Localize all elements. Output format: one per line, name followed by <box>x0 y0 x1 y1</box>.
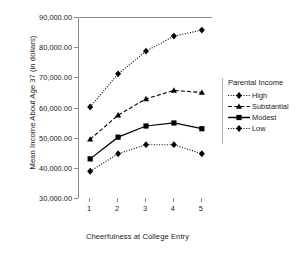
series-line <box>90 145 202 172</box>
data-point-marker <box>115 135 120 140</box>
legend-swatch-diamond-icon <box>228 90 250 101</box>
data-point-marker <box>171 33 177 40</box>
legend-title: Parental Income <box>228 78 303 87</box>
data-point-marker <box>171 87 177 92</box>
data-point-marker <box>199 150 205 157</box>
series-line <box>90 30 202 107</box>
legend-label: Substantial <box>252 102 289 111</box>
y-tick-mark <box>74 47 78 48</box>
x-axis-title: Cheerfulness at College Entry <box>60 232 215 241</box>
data-point-marker <box>199 126 204 131</box>
x-tick-label: 3 <box>135 204 155 213</box>
y-tick-label: 90,000.00 <box>18 13 72 22</box>
legend-label: High <box>252 91 267 100</box>
data-point-marker <box>115 70 121 77</box>
data-point-marker <box>199 27 205 34</box>
plot-lines-svg <box>79 18 213 199</box>
y-tick-label: 80,000.00 <box>18 43 72 52</box>
y-tick-label: 30,000.00 <box>18 194 72 203</box>
data-point-marker <box>143 141 149 148</box>
data-point-marker <box>87 168 93 175</box>
y-tick-mark <box>74 168 78 169</box>
y-tick-label: 40,000.00 <box>18 163 72 172</box>
y-tick-mark <box>74 77 78 78</box>
plot-area <box>78 17 212 198</box>
x-tick-mark <box>89 198 90 202</box>
legend-swatch-square-icon <box>228 112 250 123</box>
data-point-marker <box>143 123 148 128</box>
y-tick-label: 70,000.00 <box>18 73 72 82</box>
chart-legend: Parental Income HighSubstantialModestLow <box>222 78 303 134</box>
legend-item-substantial[interactable]: Substantial <box>228 101 303 112</box>
x-axis-tick-labels: 12345 <box>0 204 303 218</box>
x-tick-mark <box>145 198 146 202</box>
data-point-marker <box>171 141 177 148</box>
x-tick-label: 5 <box>191 204 211 213</box>
data-point-marker <box>236 115 241 120</box>
y-tick-label: 60,000.00 <box>18 103 72 112</box>
series-substantial <box>87 87 205 141</box>
legend-item-high[interactable]: High <box>228 90 303 101</box>
y-tick-mark <box>74 198 78 199</box>
data-point-marker <box>115 150 121 157</box>
data-point-marker <box>88 156 93 161</box>
y-tick-mark <box>74 108 78 109</box>
x-tick-mark <box>201 198 202 202</box>
legend-label: Modest <box>252 113 276 122</box>
series-low <box>87 141 205 174</box>
x-tick-mark <box>173 198 174 202</box>
x-tick-label: 1 <box>79 204 99 213</box>
legend-item-modest[interactable]: Modest <box>228 112 303 123</box>
data-point-marker <box>236 125 242 132</box>
legend-swatch-diamond-icon <box>228 123 250 134</box>
legend-entries: HighSubstantialModestLow <box>222 90 303 134</box>
data-point-marker <box>236 92 242 99</box>
legend-label: Low <box>252 124 266 133</box>
data-point-marker <box>115 112 121 117</box>
legend-item-low[interactable]: Low <box>228 123 303 134</box>
y-tick-mark <box>74 17 78 18</box>
x-tick-label: 4 <box>163 204 183 213</box>
x-tick-mark <box>117 198 118 202</box>
x-tick-label: 2 <box>107 204 127 213</box>
chart-figure: Mean Income About Age 37 (in dollars) 90… <box>0 0 303 256</box>
y-tick-label: 50,000.00 <box>18 133 72 142</box>
data-point-marker <box>171 120 176 125</box>
y-tick-mark <box>74 138 78 139</box>
legend-swatch-triangle-icon <box>228 101 250 112</box>
